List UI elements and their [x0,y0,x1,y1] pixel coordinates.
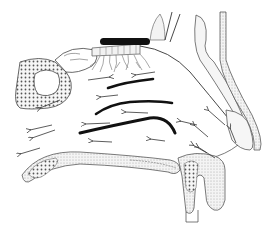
inferior-turbinate [80,118,175,133]
nasal-cavity-diagram [0,0,277,227]
upper-lip-teeth [178,153,225,222]
olfactory-nerve-fibers [90,54,150,72]
cribriform-plate [92,44,140,56]
turbinates [80,79,175,133]
nasal-bone [195,12,261,150]
olfactory-bulb [100,38,150,45]
hard-palate [22,152,180,182]
superior-turbinate [108,79,153,88]
sphenoid-sinus [16,48,97,109]
